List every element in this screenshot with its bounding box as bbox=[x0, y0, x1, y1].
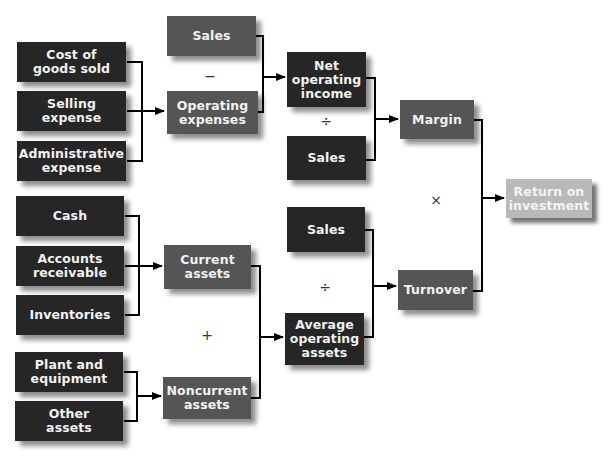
node-selling-expense: Selling expense bbox=[17, 91, 126, 131]
node-cash: Cash bbox=[16, 196, 124, 236]
node-plant-and-equipment: Plant and equipment bbox=[15, 352, 123, 392]
node-current-assets: Current assets bbox=[164, 245, 251, 289]
divide-operator-turnover: ÷ bbox=[319, 279, 331, 295]
node-sales-lower: Sales bbox=[287, 207, 365, 252]
multiply-operator: × bbox=[430, 192, 442, 208]
node-cost-of-goods-sold: Cost of goods sold bbox=[17, 42, 126, 82]
node-sales-top: Sales bbox=[167, 16, 256, 56]
node-operating-expenses: Operating expenses bbox=[167, 91, 258, 134]
plus-operator: + bbox=[201, 327, 213, 343]
node-average-operating-assets: Average operating assets bbox=[285, 313, 364, 365]
node-net-operating-income: Net operating income bbox=[287, 52, 366, 107]
node-inventories: Inventories bbox=[16, 295, 124, 335]
node-margin: Margin bbox=[400, 100, 474, 139]
node-turnover: Turnover bbox=[398, 270, 473, 310]
node-accounts-receivable: Accounts receivable bbox=[16, 246, 124, 286]
divide-operator-margin: ÷ bbox=[320, 113, 332, 129]
node-noncurrent-assets: Noncurrent assets bbox=[163, 377, 251, 419]
node-other-assets: Other assets bbox=[15, 401, 123, 441]
minus-operator: − bbox=[204, 68, 216, 84]
node-sales-mid: Sales bbox=[287, 136, 366, 180]
node-administrative-expense: Administrative expense bbox=[17, 141, 126, 181]
node-return-on-investment: Return on investment bbox=[506, 179, 592, 218]
